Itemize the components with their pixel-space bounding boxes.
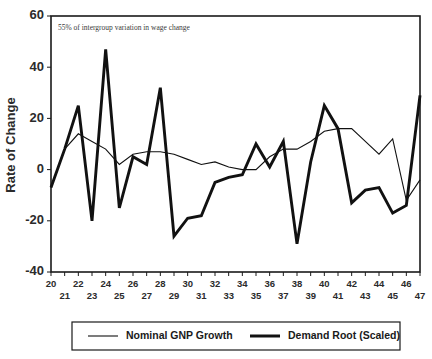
chart-svg: Rate of Change -40-200204060 20222426283… <box>0 0 432 359</box>
x-tick-label: 38 <box>292 278 303 289</box>
y-tick-label: 0 <box>37 161 44 176</box>
x-tick-label: 25 <box>114 290 125 301</box>
chart-annotation: 55% of intergroup variation in wage chan… <box>58 23 191 32</box>
x-tick-label: 39 <box>305 290 316 301</box>
x-tick-label: 24 <box>100 278 111 289</box>
y-axis-title: Rate of Change <box>3 97 18 192</box>
x-tick-label: 21 <box>59 290 70 301</box>
y-tick-label: 40 <box>30 59 44 74</box>
x-tick-label: 37 <box>278 290 289 301</box>
x-tick-label: 26 <box>128 278 139 289</box>
x-tick-label: 28 <box>155 278 166 289</box>
x-axis-tick-labels-bottom: 2123252729313335373941434547 <box>59 290 425 301</box>
x-tick-label: 20 <box>46 278 57 289</box>
x-tick-label: 46 <box>401 278 412 289</box>
y-tick-label: -20 <box>25 212 44 227</box>
x-tick-label: 42 <box>346 278 357 289</box>
x-tick-label: 40 <box>319 278 330 289</box>
y-tick-label: -40 <box>25 263 44 278</box>
x-axis-tick-labels-top: 2022242628303234363840424446 <box>46 278 412 289</box>
y-tick-label: 60 <box>30 7 44 22</box>
y-axis-tick-labels: -40-200204060 <box>25 7 44 278</box>
series-line-demand-root-scaled <box>51 49 420 244</box>
legend-label-nominal-gnp-growth: Nominal GNP Growth <box>126 329 233 341</box>
x-tick-label: 43 <box>360 290 371 301</box>
legend-label-demand-root-scaled: Demand Root (Scaled) <box>288 329 400 341</box>
x-tick-label: 47 <box>415 290 426 301</box>
x-tick-label: 29 <box>169 290 180 301</box>
x-tick-label: 35 <box>251 290 262 301</box>
x-tick-label: 45 <box>387 290 398 301</box>
x-tick-label: 27 <box>141 290 152 301</box>
x-tick-label: 23 <box>87 290 98 301</box>
y-axis-title-group: Rate of Change <box>3 97 18 192</box>
x-tick-label: 36 <box>264 278 275 289</box>
y-tick-label: 20 <box>30 110 44 125</box>
x-tick-label: 33 <box>223 290 234 301</box>
chart-container: Rate of Change -40-200204060 20222426283… <box>0 0 432 359</box>
x-tick-label: 41 <box>333 290 344 301</box>
x-tick-label: 31 <box>196 290 207 301</box>
legend: Nominal GNP Growth Demand Root (Scaled) <box>72 322 400 350</box>
x-tick-label: 22 <box>73 278 84 289</box>
x-tick-label: 32 <box>210 278 221 289</box>
x-tick-label: 34 <box>237 278 248 289</box>
x-tick-label: 30 <box>182 278 193 289</box>
x-tick-label: 44 <box>374 278 385 289</box>
